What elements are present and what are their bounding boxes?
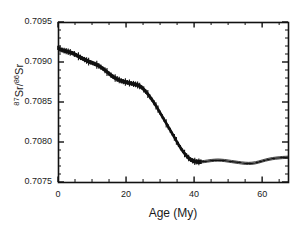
y-tick-label: 0.7080 — [12, 136, 52, 146]
x-tick-label: 60 — [247, 189, 277, 199]
plot-frame — [59, 23, 289, 183]
y-tick-label: 0.7075 — [12, 176, 52, 186]
y-tick-label: 0.7090 — [12, 56, 52, 66]
x-tick-label: 0 — [43, 189, 73, 199]
y-tick-label: 0.7095 — [12, 16, 52, 26]
x-tick-label: 40 — [179, 189, 209, 199]
x-tick-label: 20 — [111, 189, 141, 199]
chart-figure: 87Sr/86Sr Age (My) 0.70750.70800.70850.7… — [0, 0, 305, 232]
data-line — [58, 48, 288, 163]
x-axis-label: Age (My) — [58, 206, 288, 220]
y-tick-label: 0.7085 — [12, 96, 52, 106]
